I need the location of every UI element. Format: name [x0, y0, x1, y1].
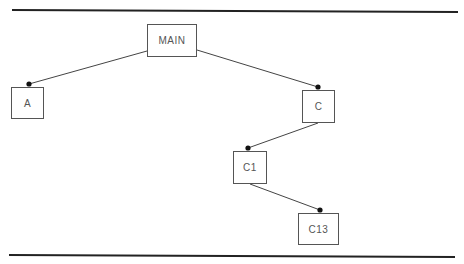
connector-dot-icon — [26, 81, 31, 86]
node-label: C — [315, 101, 323, 112]
top-rule — [12, 10, 458, 12]
edge-line — [250, 184, 320, 210]
edge-main-c — [197, 50, 321, 90]
node-label: C13 — [309, 224, 329, 235]
edges-layer — [26, 50, 322, 213]
node-main: MAIN — [147, 24, 197, 57]
edge-c1-c13 — [250, 184, 323, 213]
node-c13: C13 — [298, 213, 339, 245]
edge-c-c1 — [245, 123, 318, 151]
rules-layer — [9, 10, 458, 257]
connector-dot-icon — [317, 207, 322, 212]
node-label: A — [24, 98, 31, 109]
node-label: MAIN — [159, 35, 186, 46]
node-label: C1 — [243, 162, 257, 173]
edge-line — [29, 51, 147, 84]
edge-line — [197, 50, 318, 87]
edge-line — [248, 123, 318, 148]
node-a: A — [11, 87, 44, 119]
bottom-rule — [9, 255, 455, 257]
diagram-canvas — [0, 0, 464, 264]
connector-dot-icon — [315, 84, 320, 89]
edge-main-a — [26, 51, 147, 87]
connector-dot-icon — [245, 145, 250, 150]
node-c: C — [302, 90, 335, 123]
tree-diagram: MAINACC1C13 — [0, 0, 464, 264]
node-c1: C1 — [233, 151, 267, 184]
